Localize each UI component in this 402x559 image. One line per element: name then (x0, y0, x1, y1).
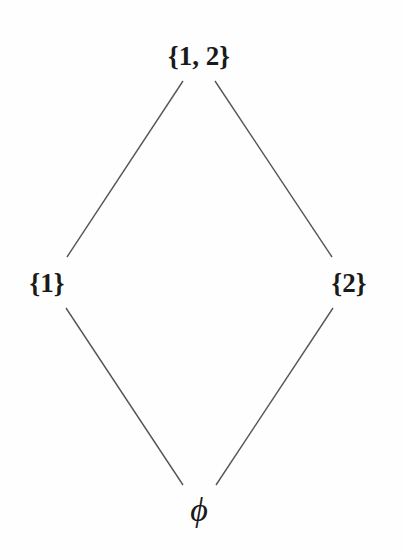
edge-right-bottom (216, 308, 333, 485)
node-set-1-2: {1, 2} (168, 43, 230, 70)
edge-top-left (67, 81, 183, 257)
edge-left-bottom (66, 308, 183, 485)
edge-top-right (215, 81, 332, 257)
hasse-diagram: {1, 2} {1} {2} ϕ (0, 0, 402, 559)
node-set-2: {2} (332, 270, 367, 297)
node-empty-set: ϕ (190, 493, 208, 527)
node-set-1: {1} (30, 270, 65, 297)
